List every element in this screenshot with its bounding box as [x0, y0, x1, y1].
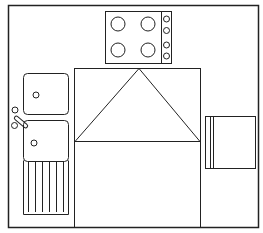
central-rectangle [75, 69, 201, 228]
tap-handle-icon [12, 123, 18, 129]
tap-handle-icon [12, 107, 18, 113]
hob [106, 12, 172, 64]
burner-icon [141, 43, 155, 57]
burner-icon [111, 43, 125, 57]
work-triangle [75, 69, 200, 142]
tap-spout-icon [14, 115, 29, 128]
refrigerator [206, 117, 256, 169]
knob-icon [164, 53, 170, 59]
drainer [24, 161, 69, 215]
sink-bowl-top [24, 74, 69, 115]
kitchen-plan [0, 0, 263, 233]
burner-icon [141, 17, 155, 31]
drain-icon [31, 140, 37, 146]
sink-bowl-bottom [24, 121, 69, 162]
knob-icon [164, 16, 170, 22]
burner-icon [111, 17, 125, 31]
knob-icon [164, 42, 170, 48]
central-area [75, 69, 201, 228]
knob-icon [164, 28, 170, 34]
tap-icon [12, 107, 29, 129]
double-sink [24, 74, 69, 215]
drain-icon [33, 92, 39, 98]
